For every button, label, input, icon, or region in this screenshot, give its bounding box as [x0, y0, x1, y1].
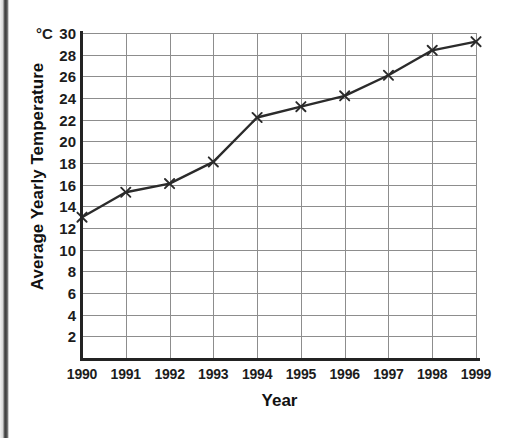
y-tick-label: 10: [36, 243, 76, 258]
y-tick-label: 6: [36, 286, 76, 301]
x-axis-title: Year: [82, 392, 477, 409]
y-tick-label: 24: [36, 91, 76, 106]
y-tick-label: 14: [36, 199, 76, 214]
y-axis-tick-labels: 30282624222018161412108642: [30, 33, 76, 358]
y-axis-spine: [80, 31, 83, 360]
scan-page-edge-inner: [9, 0, 12, 438]
data-point-marker: [209, 157, 218, 166]
chart-figure: °C Average Yearly Temperature 3028262422…: [0, 0, 528, 438]
y-tick-label: 8: [36, 264, 76, 279]
x-axis-tick-labels: 1990199119921993199419951996199719981999: [82, 367, 477, 387]
y-tick-label: 18: [36, 156, 76, 171]
y-tick-label: 28: [36, 48, 76, 63]
x-tick-label: 1999: [444, 367, 508, 381]
y-tick-label: 22: [36, 113, 76, 128]
series-polyline: [82, 42, 476, 218]
y-tick-label: 12: [36, 221, 76, 236]
y-tick-label: 2: [36, 329, 76, 344]
y-tick-label: 26: [36, 69, 76, 84]
data-point-marker: [384, 71, 393, 80]
y-tick-label: 4: [36, 308, 76, 323]
y-tick-label: 16: [36, 178, 76, 193]
y-tick-label: 30: [36, 26, 76, 41]
data-series-line: [82, 33, 477, 358]
plot-area: [82, 33, 477, 358]
scan-page-edge: [0, 0, 9, 438]
y-tick-label: 20: [36, 134, 76, 149]
x-axis-spine: [80, 358, 480, 361]
